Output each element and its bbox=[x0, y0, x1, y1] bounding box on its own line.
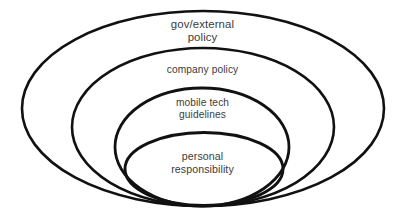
ring-outline-personal-responsibility bbox=[125, 133, 283, 206]
diagram-canvas: gov/external policy company policy mobil… bbox=[0, 0, 405, 219]
ring-outline-company-policy bbox=[72, 48, 334, 206]
nested-ellipse-funnel-graphic bbox=[0, 0, 405, 219]
